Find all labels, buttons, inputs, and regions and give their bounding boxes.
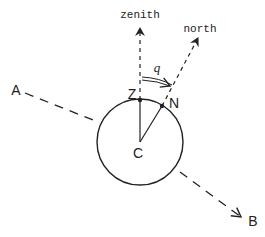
point-z-dot xyxy=(138,98,142,102)
angle-q-arc xyxy=(142,77,172,86)
radius-cn xyxy=(140,106,162,142)
point-c-label: C xyxy=(133,145,143,161)
point-n-dot xyxy=(160,104,164,108)
point-z-label: Z xyxy=(128,86,137,102)
north-label: north xyxy=(183,23,216,35)
north-arrow xyxy=(162,38,198,106)
point-n-label: N xyxy=(169,95,179,111)
celestial-sphere-diagram: zenith north q A B Z N C xyxy=(0,0,265,237)
path-a-line xyxy=(25,93,98,122)
path-b-arrow xyxy=(180,172,241,217)
point-b-label: B xyxy=(248,213,257,229)
point-a-label: A xyxy=(11,82,21,98)
angle-q-label: q xyxy=(154,60,161,75)
zenith-label: zenith xyxy=(120,9,160,21)
